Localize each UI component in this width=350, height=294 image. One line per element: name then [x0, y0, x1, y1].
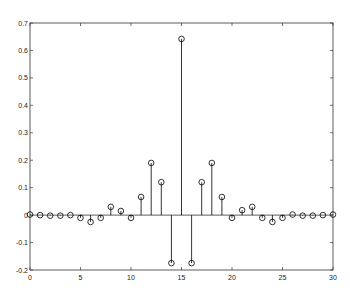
x-tick-label: 5	[79, 274, 83, 281]
x-tick-label: 15	[178, 274, 186, 281]
x-tick-label: 10	[127, 274, 135, 281]
y-tick-label: 0.2	[18, 157, 28, 164]
y-tick-label: 0.1	[18, 184, 28, 191]
y-tick-label: -0.1	[16, 239, 28, 246]
x-tick-label: 25	[279, 274, 287, 281]
x-tick-label: 20	[228, 274, 236, 281]
x-tick-label: 0	[28, 274, 32, 281]
x-tick-label: 30	[329, 274, 337, 281]
y-tick-label: -0.2	[16, 267, 28, 274]
stem-plot: 051015202530 -0.2-0.100.10.20.30.40.50.6…	[0, 0, 350, 294]
y-tick-label: 0.5	[18, 74, 28, 81]
y-tick-label: 0.3	[18, 129, 28, 136]
y-tick-label: 0.7	[18, 20, 28, 27]
y-tick-label: 0.6	[18, 47, 28, 54]
y-tick-label: 0.4	[18, 102, 28, 109]
